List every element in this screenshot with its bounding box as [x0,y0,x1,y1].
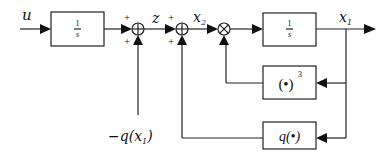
svg-text:1: 1 [76,19,80,28]
z-label: z [151,10,160,26]
x2-label: x2 [193,9,206,27]
arrow-icon [207,24,218,34]
svg-text:+: + [168,35,174,47]
integrator-block-1: 1 s [51,12,104,46]
svg-text:+: + [124,35,130,47]
cube-block: (•) 3 [263,66,316,99]
svg-text:(•): (•) [278,76,293,93]
svg-text:1: 1 [288,19,292,28]
svg-text:s: s [288,30,291,39]
arrow-icon [316,133,327,143]
arrow-icon [40,24,51,34]
input-label: u [22,6,32,24]
arrow-icon [219,35,229,45]
svg-text:s: s [76,30,79,39]
multiplier-junction [218,23,230,35]
svg-text:q(•): q(•) [279,129,301,145]
block-diagram: u 1 s + + −q(x1) z + + x2 [0,0,391,156]
arrow-icon [252,24,263,34]
output-arrow-icon [364,24,376,34]
arrow-icon [316,78,327,88]
integrator-block-2: 1 s [263,13,316,46]
x1-label: x1 [339,9,352,27]
arrow-icon [133,35,143,45]
arrow-icon [121,24,132,34]
svg-text:3: 3 [298,70,302,79]
svg-text:+: + [124,11,130,23]
disturbance-label: −q(x1) [108,128,153,146]
q-block: q(•) [263,122,316,149]
arrow-icon [165,24,176,34]
svg-text:+: + [168,11,174,23]
arrow-icon [177,35,187,45]
